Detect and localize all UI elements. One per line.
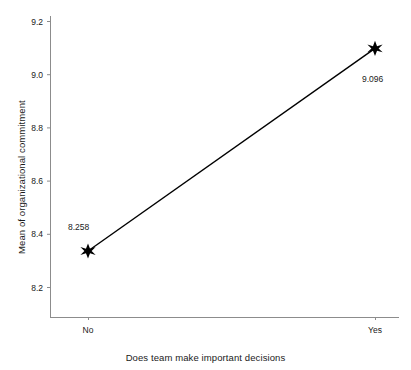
x-axis-title: Does team make important decisions xyxy=(0,352,411,363)
y-tick-label: 8.2 xyxy=(0,283,43,293)
y-tick-label: 9.0 xyxy=(0,70,43,80)
data-line xyxy=(88,48,375,251)
y-tick-label: 8.6 xyxy=(0,176,43,186)
y-tick-label: 8.4 xyxy=(0,229,43,239)
data-point-marker-no xyxy=(80,243,95,258)
x-tick-label-no: No xyxy=(58,325,118,335)
plot-area xyxy=(0,0,411,370)
x-tick-label-yes: Yes xyxy=(345,325,405,335)
y-tick-marks xyxy=(47,22,50,288)
data-point-value-yes: 9.096 xyxy=(362,74,383,84)
y-tick-label: 9.2 xyxy=(0,17,43,27)
data-point-marker-yes xyxy=(367,41,382,56)
data-point-value-no: 8.258 xyxy=(68,222,89,232)
y-tick-label: 8.8 xyxy=(0,123,43,133)
line-chart: Mean of organizational commitment Does t… xyxy=(0,0,411,370)
